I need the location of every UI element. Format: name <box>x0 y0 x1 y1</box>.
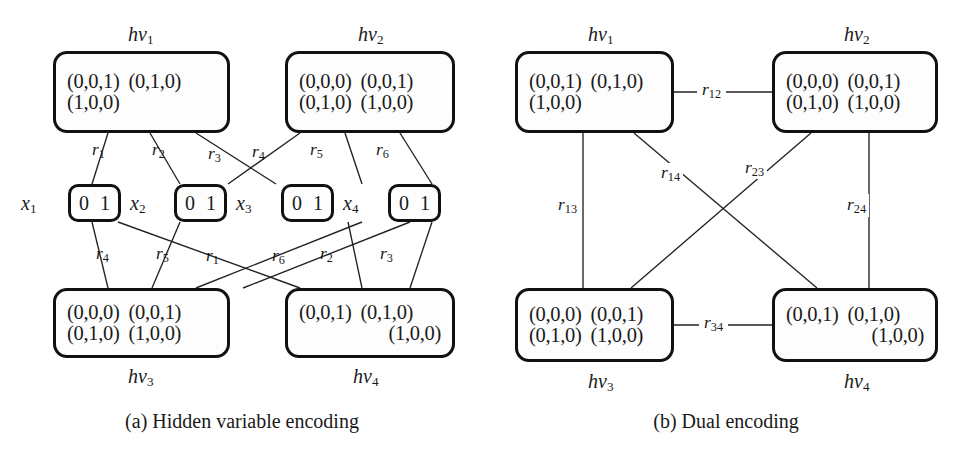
hv-tuple: (0,0,1) <box>786 304 848 325</box>
hv-box-row: (0,1,0) (1,0,0) <box>786 92 924 113</box>
node-label-hv4: hv4 <box>353 366 378 388</box>
node-label-hv3: hv3 <box>588 371 613 393</box>
edge-hv2-x4 <box>400 133 432 184</box>
hv-box-row: (1,0,0) <box>786 325 924 346</box>
x-domain-values: 0 1 <box>76 192 113 215</box>
x-domain-values: 0 1 <box>182 192 219 215</box>
edge-label-r13: r13 <box>555 194 580 217</box>
hv-box-row: (1,0,0) <box>529 92 660 113</box>
edge-label-r1: r1 <box>92 141 105 160</box>
edge-label-r34: r34 <box>699 314 728 333</box>
x-domain-values: 0 1 <box>396 192 433 215</box>
hv-box-row: (1,0,0) <box>67 92 216 113</box>
hv-box-hv4[interactable]: (0,0,1) (0,1,0) (1,0,0) <box>772 288 938 362</box>
hv-tuple: (1,0,0) <box>591 325 653 346</box>
hv-box-row: (0,1,0) (1,0,0) <box>299 92 441 113</box>
hv-tuple: (0,0,1) <box>529 71 591 92</box>
hv-box-hv1[interactable]: (0,0,1) (0,1,0) (1,0,0) <box>53 51 230 133</box>
hv-tuple: (0,0,0) <box>299 71 361 92</box>
x-box-x3[interactable]: 0 1 <box>281 184 334 222</box>
hv-box-row: (0,0,1) (0,1,0) <box>786 304 924 325</box>
hv-box-row: (0,0,0) (0,0,1) <box>529 304 660 325</box>
hv-tuple: (0,1,0) <box>848 304 910 325</box>
hv-tuple: (0,1,0) <box>129 71 191 92</box>
edge-label-r1-lower: r1 <box>206 247 219 266</box>
node-label-hv2: hv2 <box>358 24 383 46</box>
hv-box-row: (0,0,0) (0,0,1) <box>786 71 924 92</box>
hv-tuple: (0,1,0) <box>67 323 129 344</box>
node-label-hv1: hv1 <box>128 24 153 46</box>
edge-label-r5-lower: r5 <box>156 245 169 264</box>
edge-hv2-x3 <box>345 133 362 184</box>
panel-hidden-variable-encoding: hv1 (0,0,1) (0,1,0) (1,0,0) hv2 (0,0,0) … <box>0 0 484 468</box>
x-box-x2[interactable]: 0 1 <box>174 184 227 222</box>
edge-label-r2-lower: r2 <box>320 245 333 264</box>
edge-label-r3-lower: r3 <box>380 245 393 264</box>
hv-box-hv4[interactable]: (0,0,1) (0,1,0) (1,0,0) <box>285 288 455 358</box>
node-label-hv3: hv3 <box>128 366 153 388</box>
hv-tuple: (0,0,1) <box>67 71 129 92</box>
hv-tuple: (0,0,1) <box>361 71 423 92</box>
edge-label-r6: r6 <box>376 141 389 160</box>
edge-label-r23: r23 <box>742 158 767 179</box>
hv-box-hv2[interactable]: (0,0,0) (0,0,1) (0,1,0) (1,0,0) <box>772 51 938 133</box>
hv-tuple: (1,0,0) <box>848 92 910 113</box>
edge-hv1-hv4 <box>634 133 817 288</box>
hv-box-row: (0,1,0) (1,0,0) <box>67 323 216 344</box>
node-label-x3: x3 <box>236 193 251 215</box>
hv-tuple: (0,0,1) <box>848 71 910 92</box>
x-box-x4[interactable]: 0 1 <box>388 184 441 222</box>
hv-box-row: (0,1,0) (1,0,0) <box>529 325 660 346</box>
panel-b-caption: (b) Dual encoding <box>484 410 968 433</box>
node-label-x1: x1 <box>21 193 36 215</box>
node-label-hv1: hv1 <box>588 24 613 46</box>
edge-label-r12: r12 <box>697 81 726 100</box>
hv-tuple: (1,0,0) <box>388 323 441 344</box>
hv-tuple: (1,0,0) <box>529 92 591 113</box>
hv-box-row: (1,0,0) <box>299 323 441 344</box>
edge-x3-hv4 <box>348 222 362 288</box>
hv-tuple: (0,1,0) <box>529 325 591 346</box>
hv-tuple: (1,0,0) <box>67 92 129 113</box>
edge-label-r4-lower: r4 <box>96 245 109 264</box>
panel-dual-encoding: hv1 (0,0,1) (0,1,0) (1,0,0) hv2 (0,0,0) … <box>484 0 968 468</box>
node-label-hv2: hv2 <box>844 24 869 46</box>
edge-hv2-hv3 <box>631 133 811 288</box>
hv-box-hv3[interactable]: (0,0,0) (0,0,1) (0,1,0) (1,0,0) <box>515 288 674 362</box>
edge-label-r14: r14 <box>658 163 683 184</box>
hv-box-row: (0,0,1) (0,1,0) <box>299 302 441 323</box>
edge-label-r5: r5 <box>310 141 323 160</box>
hv-box-row: (0,0,1) (0,1,0) <box>529 71 660 92</box>
hv-tuple: (0,1,0) <box>299 92 361 113</box>
x-domain-values: 0 1 <box>289 192 326 215</box>
hv-box-hv1[interactable]: (0,0,1) (0,1,0) (1,0,0) <box>515 51 674 133</box>
hv-tuple: (0,0,1) <box>299 302 361 323</box>
edge-label-r24: r24 <box>844 194 869 217</box>
hv-tuple: (0,0,1) <box>591 304 653 325</box>
node-label-x2: x2 <box>130 193 145 215</box>
hv-tuple: (0,0,1) <box>129 302 191 323</box>
hv-tuple: (0,0,0) <box>786 71 848 92</box>
edge-label-r2: r2 <box>152 141 165 160</box>
hv-tuple: (0,1,0) <box>361 302 423 323</box>
hv-tuple: (0,0,0) <box>529 304 591 325</box>
edge-label-r3: r3 <box>208 145 221 164</box>
hv-tuple: (1,0,0) <box>871 325 924 346</box>
x-box-x1[interactable]: 0 1 <box>68 184 121 222</box>
edge-label-r6-lower: r6 <box>272 247 285 266</box>
hv-tuple: (1,0,0) <box>361 92 423 113</box>
edge-x4-hv4 <box>410 222 432 288</box>
hv-tuple: (0,1,0) <box>786 92 848 113</box>
hv-box-hv3[interactable]: (0,0,0) (0,0,1) (0,1,0) (1,0,0) <box>53 288 230 358</box>
hv-box-row: (0,0,0) (0,0,1) <box>299 71 441 92</box>
hv-box-row: (0,0,1) (0,1,0) <box>67 71 216 92</box>
hv-tuple: (0,0,0) <box>67 302 129 323</box>
hv-box-row: (0,0,0) (0,0,1) <box>67 302 216 323</box>
hv-tuple: (0,1,0) <box>591 71 653 92</box>
node-label-x4: x4 <box>343 193 358 215</box>
hv-box-hv2[interactable]: (0,0,0) (0,0,1) (0,1,0) (1,0,0) <box>285 51 455 133</box>
panel-a-caption: (a) Hidden variable encoding <box>0 410 484 433</box>
edge-label-r4: r4 <box>252 143 265 162</box>
hv-tuple: (1,0,0) <box>129 323 191 344</box>
figure-container: hv1 (0,0,1) (0,1,0) (1,0,0) hv2 (0,0,0) … <box>0 0 968 468</box>
